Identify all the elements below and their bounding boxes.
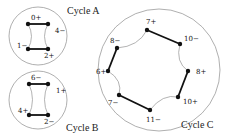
edge [178,71,188,97]
node-label: 2+ [44,52,54,60]
node-label: 8+ [196,68,206,76]
node-label: 2− [44,118,54,126]
node-dot [27,82,31,86]
connector-arc [179,44,188,71]
node-label: 4+ [18,107,28,115]
edge [147,30,180,44]
node-dot [117,93,121,97]
node-dot [46,82,50,86]
node-dot [148,108,152,112]
node-label: 1+ [56,87,66,95]
node-dot [145,28,149,32]
connector-arc [150,96,178,110]
connector-arc [45,84,48,115]
node-dot [46,22,50,26]
connector-arc [29,84,32,115]
cycle-title: Cycle C [181,119,214,130]
connector-arc [117,30,147,48]
node-dot [178,42,182,46]
edge [108,48,117,71]
node-label: 7− [108,99,118,107]
cycle-b: 6−1+4+2−Cycle B [9,71,99,133]
node-label: 6+ [96,68,106,76]
node-label: 0+ [31,14,41,22]
connector-arc [28,24,31,49]
node-dot [46,47,50,51]
node-label: 4− [55,27,65,35]
edge [119,95,150,110]
cycle-a: 0+4−1−2+Cycle A [9,5,100,65]
node-label: 8− [110,37,120,45]
node-dot [176,95,180,99]
node-dot [26,22,30,26]
node-dot [106,69,110,73]
node-label: 6− [31,74,41,82]
cycle-c: 7+10−8+10+11−7−6+8−Cycle C [96,9,220,131]
cycle-title: Cycle A [67,5,100,16]
node-label: 10+ [183,98,198,106]
connector-arc [45,24,48,49]
node-dot [115,46,119,50]
node-label: 10− [184,35,199,43]
cycle-diagram: 0+4−1−2+Cycle A 6−1+4+2−Cycle B 7+10−8+1… [0,0,226,135]
node-dot [186,69,190,73]
cycle-title: Cycle B [66,122,99,133]
node-dot [46,113,50,117]
connector-arc [108,71,120,95]
node-label: 7+ [146,18,156,26]
node-label: 1− [17,42,27,50]
node-label: 11− [146,116,161,124]
